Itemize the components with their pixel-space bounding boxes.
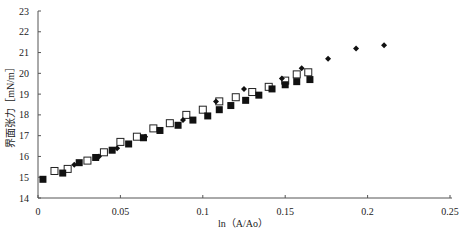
y-tick-label: 22	[19, 26, 29, 37]
x-tick-label: 0.2	[361, 206, 374, 217]
open-square-marker	[183, 111, 190, 118]
y-tick-label: 17	[19, 130, 29, 141]
series-filled-square	[39, 76, 313, 183]
diamond-marker	[299, 65, 305, 71]
y-tick-label: 14	[19, 193, 29, 204]
y-axis-title: 界面张力［mN/m］	[4, 62, 16, 148]
filled-square-marker	[189, 117, 196, 124]
filled-square-marker	[156, 127, 163, 134]
x-tick-label: 0.25	[441, 206, 459, 217]
x-tick-label: 0.05	[112, 206, 130, 217]
filled-square-marker	[227, 102, 234, 109]
y-tick-label: 19	[19, 89, 29, 100]
y-tick-label: 16	[19, 151, 29, 162]
y-tick-label: 20	[19, 68, 29, 79]
filled-square-marker	[269, 85, 276, 92]
diamond-marker	[353, 45, 359, 51]
filled-square-marker	[255, 92, 262, 99]
scatter-chart: 14151617181920212223 00.050.10.150.20.25…	[0, 0, 464, 234]
open-square-marker	[100, 149, 107, 156]
y-tick-label: 23	[19, 6, 29, 17]
open-square-marker	[51, 167, 58, 174]
open-square-marker	[199, 106, 206, 113]
open-square-marker	[133, 133, 140, 140]
y-tick-label: 18	[19, 109, 29, 120]
open-square-marker	[249, 89, 256, 96]
x-tick-label: 0.15	[276, 206, 294, 217]
open-square-marker	[293, 71, 300, 78]
filled-square-marker	[216, 106, 223, 113]
series-open-square	[51, 69, 312, 175]
open-square-marker	[84, 157, 91, 164]
filled-square-marker	[175, 122, 182, 129]
open-square-marker	[117, 138, 124, 145]
filled-square-marker	[125, 140, 132, 147]
diamond-marker	[241, 86, 247, 92]
open-square-marker	[166, 120, 173, 127]
x-axis-title: ln（A/Ao）	[218, 218, 268, 229]
open-square-marker	[232, 94, 239, 101]
filled-square-marker	[59, 170, 66, 177]
x-tick-label: 0.1	[197, 206, 210, 217]
x-tick-label: 0	[36, 206, 41, 217]
diamond-marker	[381, 42, 387, 48]
filled-square-marker	[306, 76, 313, 83]
diamond-marker	[325, 56, 331, 62]
y-tick-label: 21	[19, 47, 29, 58]
filled-square-marker	[204, 112, 211, 119]
filled-square-marker	[282, 81, 289, 88]
y-tick-label: 15	[19, 172, 29, 183]
filled-square-marker	[293, 78, 300, 85]
filled-square-marker	[242, 97, 249, 104]
data-points	[39, 42, 387, 183]
open-square-marker	[150, 125, 157, 132]
open-square-marker	[305, 69, 312, 76]
axes	[38, 11, 452, 198]
filled-square-marker	[39, 176, 46, 183]
